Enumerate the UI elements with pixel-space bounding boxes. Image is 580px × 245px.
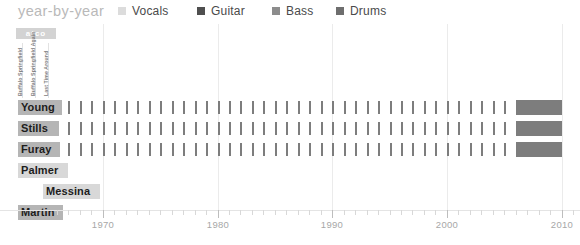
year-tick: [126, 122, 128, 135]
year-tick: [91, 101, 93, 114]
year-tick: [332, 122, 334, 135]
axis-tick-minor: [401, 210, 402, 215]
year-tick: [321, 122, 323, 135]
year-tick: [298, 143, 300, 156]
axis-tick-minor: [527, 210, 528, 215]
member-name-furay[interactable]: Furay: [18, 142, 60, 157]
year-tick: [424, 143, 426, 156]
x-axis: 19701980199020002010: [0, 210, 580, 245]
year-tick: [252, 101, 254, 114]
axis-tick-minor: [367, 210, 368, 215]
axis-tick-minor: [504, 210, 505, 215]
year-tick: [206, 143, 208, 156]
member-row[interactable]: Furay: [0, 142, 580, 160]
year-tick: [183, 122, 185, 135]
axis-tick-minor: [309, 210, 310, 215]
year-tick: [126, 101, 128, 114]
legend-item-guitar[interactable]: Guitar: [197, 4, 245, 18]
year-tick: [435, 122, 437, 135]
member-name-stills[interactable]: Stills: [18, 121, 59, 136]
year-tick: [493, 143, 495, 156]
legend-item-bass[interactable]: Bass: [272, 4, 313, 18]
year-tick: [263, 101, 265, 114]
year-tick: [160, 122, 162, 135]
year-tick: [344, 143, 346, 156]
axis-tick-minor: [470, 210, 471, 215]
year-tick: [149, 101, 151, 114]
year-tick: [504, 122, 506, 135]
axis-tick-minor: [114, 210, 115, 215]
year-tick: [447, 101, 449, 114]
year-tick: [504, 143, 506, 156]
reunion-block: [516, 100, 562, 115]
year-tick: [195, 122, 197, 135]
axis-tick-minor: [172, 210, 173, 215]
year-tick: [229, 143, 231, 156]
year-tick: [137, 101, 139, 114]
year-tick: [355, 101, 357, 114]
axis-tick-major: [332, 210, 333, 218]
axis-tick-minor: [424, 210, 425, 215]
year-tick: [401, 122, 403, 135]
axis-tick-label: 1990: [321, 219, 343, 230]
year-tick: [355, 122, 357, 135]
year-tick: [470, 122, 472, 135]
year-tick: [126, 143, 128, 156]
axis-tick-minor: [57, 210, 58, 215]
reunion-block: [516, 121, 562, 136]
year-tick: [435, 143, 437, 156]
axis-tick-label: 1970: [92, 219, 114, 230]
year-tick: [458, 101, 460, 114]
year-tick: [401, 101, 403, 114]
axis-tick-minor: [68, 210, 69, 215]
axis-tick-label: 1980: [207, 219, 229, 230]
legend-label: Bass: [286, 4, 313, 18]
axis-tick-minor: [573, 210, 574, 215]
year-tick: [68, 101, 70, 114]
year-tick: [412, 101, 414, 114]
legend-item-vocals[interactable]: Vocals: [118, 4, 169, 18]
year-tick: [481, 122, 483, 135]
year-tick: [493, 122, 495, 135]
member-name-messina[interactable]: Messina: [43, 184, 100, 199]
year-tick: [286, 122, 288, 135]
legend-item-drums[interactable]: Drums: [336, 4, 386, 18]
member-row[interactable]: Palmer: [0, 163, 580, 181]
year-tick: [435, 101, 437, 114]
year-tick: [160, 143, 162, 156]
legend-swatch-icon: [118, 7, 126, 15]
year-tick: [149, 143, 151, 156]
year-tick: [172, 101, 174, 114]
member-name-palmer[interactable]: Palmer: [18, 163, 68, 178]
member-row[interactable]: Messina: [0, 184, 580, 202]
year-tick: [80, 143, 82, 156]
member-name-young[interactable]: Young: [18, 100, 62, 115]
reunion-block: [516, 142, 562, 157]
year-tick: [240, 143, 242, 156]
axis-tick-major: [447, 210, 448, 218]
axis-tick-minor: [195, 210, 196, 215]
year-tick: [137, 143, 139, 156]
legend-swatch-icon: [336, 7, 344, 15]
axis-tick-minor: [80, 210, 81, 215]
year-tick: [390, 101, 392, 114]
year-tick: [218, 122, 220, 135]
axis-tick-minor: [539, 210, 540, 215]
year-tick: [80, 122, 82, 135]
axis-tick-minor: [390, 210, 391, 215]
page-title: year-by-year: [18, 3, 104, 19]
chart-header: year-by-year VocalsGuitarBassDrums: [0, 0, 580, 24]
year-tick: [309, 101, 311, 114]
year-tick: [412, 143, 414, 156]
year-tick-strip: [0, 143, 580, 156]
year-tick: [114, 122, 116, 135]
member-row[interactable]: Stills: [0, 121, 580, 139]
year-tick: [367, 122, 369, 135]
year-tick: [344, 101, 346, 114]
year-tick: [229, 101, 231, 114]
year-tick: [390, 143, 392, 156]
year-tick: [68, 143, 70, 156]
year-tick: [390, 122, 392, 135]
year-tick: [275, 143, 277, 156]
member-row[interactable]: Young: [0, 100, 580, 118]
